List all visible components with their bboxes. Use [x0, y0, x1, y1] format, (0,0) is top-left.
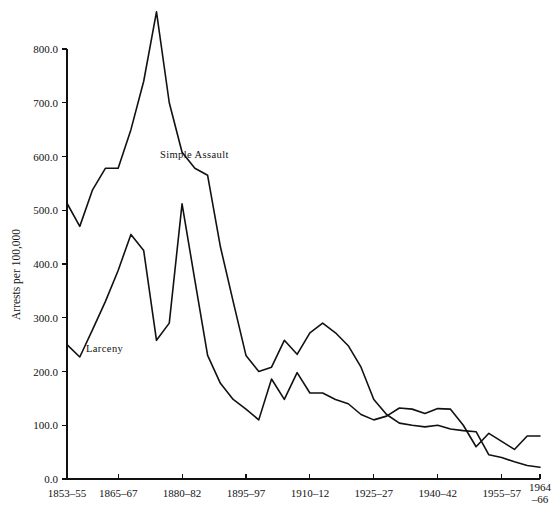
x-tick-label: 1910–12 — [291, 487, 330, 499]
x-tick-label: 1895–97 — [227, 487, 266, 499]
x-axis-tick-labels: 1853–551865–671880–821895–971910–121925–… — [48, 481, 552, 505]
y-tick-label: 700.0 — [33, 97, 58, 109]
x-tick-label: 1925–27 — [355, 487, 394, 499]
arrests-line-chart: 0.0100.0200.0300.0400.0500.0600.0700.080… — [0, 0, 559, 514]
chart-page: 0.0100.0200.0300.0400.0500.0600.0700.080… — [0, 0, 559, 514]
y-tick-label: 400.0 — [33, 258, 58, 270]
chart-series-labels: Simple AssaultLarceny — [86, 149, 229, 354]
y-tick-label: 200.0 — [33, 366, 58, 378]
x-tick-label: 1880–82 — [163, 487, 202, 499]
series-label-simple-assault: Simple Assault — [160, 149, 229, 160]
series-line-larceny — [67, 204, 540, 450]
x-tick-label: 1865–67 — [99, 487, 138, 499]
y-axis-tick-labels: 0.0100.0200.0300.0400.0500.0600.0700.080… — [33, 43, 58, 485]
y-tick-label: 500.0 — [33, 204, 58, 216]
y-tick-label: 800.0 — [33, 43, 58, 55]
series-line-simple-assault — [67, 12, 540, 467]
y-tick-label: 0.0 — [44, 473, 58, 485]
x-tick-label: 1964–66 — [529, 481, 552, 505]
y-axis-ticks — [62, 49, 67, 479]
y-tick-label: 100.0 — [33, 419, 58, 431]
chart-axes — [67, 49, 540, 479]
y-axis-title: Arrests per 100,000 — [10, 229, 23, 320]
x-tick-label: 1853–55 — [48, 487, 87, 499]
x-axis-ticks — [67, 474, 540, 479]
y-tick-label: 300.0 — [33, 312, 58, 324]
x-tick-label: 1955–57 — [482, 487, 521, 499]
chart-series-group — [67, 12, 540, 467]
x-tick-label: 1940–42 — [418, 487, 457, 499]
series-label-larceny: Larceny — [86, 343, 124, 354]
y-tick-label: 600.0 — [33, 151, 58, 163]
